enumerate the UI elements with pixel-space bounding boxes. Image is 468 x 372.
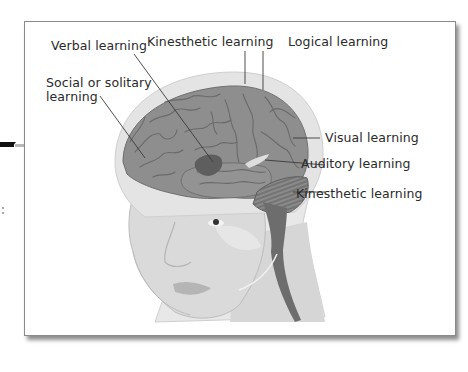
margin-mark xyxy=(2,207,5,219)
head-brain-illustration xyxy=(25,22,455,335)
figure-frame: Verbal learning Kinesthetic learning Log… xyxy=(24,21,456,336)
label-social-line1: Social or solitary xyxy=(46,75,152,90)
label-kinesthetic-learning-bottom: Kinesthetic learning xyxy=(296,186,423,201)
label-social-line2: learning xyxy=(46,89,98,104)
tab-grey xyxy=(15,144,24,147)
label-kinesthetic-learning-top: Kinesthetic learning xyxy=(147,34,274,49)
label-visual-learning: Visual learning xyxy=(325,130,419,145)
page-edge-tab-marker xyxy=(0,142,24,151)
label-verbal-learning: Verbal learning xyxy=(51,38,147,53)
label-logical-learning: Logical learning xyxy=(288,34,388,49)
label-auditory-learning: Auditory learning xyxy=(301,156,411,171)
